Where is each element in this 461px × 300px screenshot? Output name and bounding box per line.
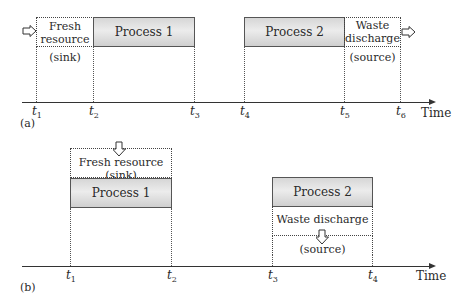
tick-t4-b: t4 <box>368 268 378 284</box>
tick-t6-a: t6 <box>396 104 406 120</box>
sink-label-a: (sink) <box>36 51 94 64</box>
guide-t5-a <box>344 47 345 102</box>
tick-t4-a: t4 <box>240 104 250 120</box>
time-label-b: Time <box>416 269 446 283</box>
panel-label-a: (a) <box>20 117 35 130</box>
guide-t4-a <box>244 47 245 102</box>
inflow-arrow-icon <box>22 25 38 37</box>
time-label-a: Time <box>421 106 451 120</box>
time-axis-b <box>22 266 430 267</box>
guide-t1-b <box>70 208 71 266</box>
guide-t3-b <box>272 255 273 266</box>
inflow-arrow-icon-b <box>113 141 127 157</box>
guide-t2-a <box>93 47 94 102</box>
waste-discharge-label-a: Waste discharge <box>344 19 401 45</box>
process2-bar-a: Process 2 <box>244 17 345 47</box>
tick-t5-a: t5 <box>340 104 350 120</box>
source-label-b: (source) <box>272 243 373 256</box>
source-label-a: (source) <box>344 51 401 64</box>
axis-arrow-icon-a <box>429 99 436 105</box>
guide-t1-a <box>36 47 37 102</box>
fresh-resource-label-a: Fresh resource <box>36 20 94 46</box>
tick-t1-b: t1 <box>66 268 76 284</box>
process1-bar-b: Process 1 <box>70 178 172 208</box>
guide-t4-b <box>372 255 373 266</box>
guide-t6-a <box>400 47 401 102</box>
guide-t2-b <box>171 208 172 266</box>
tick-t2-b: t2 <box>167 268 177 284</box>
waste-discharge-label-b: Waste discharge <box>272 213 373 226</box>
tick-t3-b: t3 <box>268 268 278 284</box>
time-axis-a <box>22 102 430 103</box>
process1-bar-a: Process 1 <box>93 17 195 47</box>
guide-t3-a <box>194 47 195 102</box>
outflow-arrow-icon <box>401 26 417 38</box>
tick-t3-a: t3 <box>190 104 200 120</box>
process2-bar-b: Process 2 <box>272 177 373 207</box>
panel-label-b: (b) <box>20 281 36 294</box>
tick-t2-a: t2 <box>89 104 99 120</box>
